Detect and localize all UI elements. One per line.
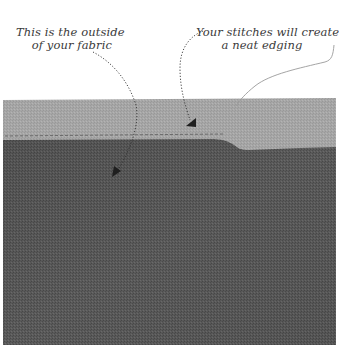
outside-fabric-label-line2: of your fabric [16,39,112,52]
fabric-photo [0,0,339,349]
neat-edging-label: Your stitches will create a neat edging [196,26,328,52]
fabric-illustration: This is the outside of your fabric Your … [0,0,339,349]
thread [236,45,334,106]
neat-edging-label-line2: a neat edging [196,39,328,52]
outside-fabric-label: This is the outside of your fabric [16,26,112,52]
